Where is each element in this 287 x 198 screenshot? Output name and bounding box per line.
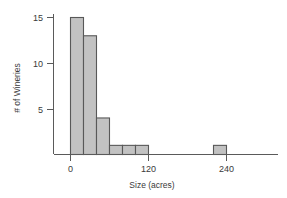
bar-rect (71, 18, 84, 155)
bar-rect (97, 118, 110, 155)
y-tick-label: 15 (33, 13, 43, 23)
bar-rect (110, 145, 123, 154)
bar-rect (214, 145, 227, 154)
histogram-chart: 15 10 5 0 120 240 Size (acres) # of Wine… (0, 0, 287, 198)
x-tick-label: 0 (68, 164, 73, 174)
y-tick-label: 10 (33, 59, 43, 69)
histogram-svg: 15 10 5 0 120 240 Size (acres) # of Wine… (0, 0, 287, 198)
bar-rect (123, 145, 136, 154)
x-tick-label: 120 (141, 164, 156, 174)
y-tick-label: 5 (38, 105, 43, 115)
x-axis-ticks (71, 155, 227, 162)
x-axis-tick-labels: 0 120 240 (68, 164, 234, 174)
x-axis-title: Size (acres) (129, 180, 175, 190)
y-axis-title: # of Wineries (12, 63, 22, 113)
bar-rect (136, 145, 149, 154)
x-tick-label: 240 (219, 164, 234, 174)
y-axis-tick-labels: 15 10 5 (33, 13, 43, 115)
bar-rect (84, 36, 97, 155)
y-axis-ticks (47, 18, 54, 110)
plot-bars (71, 18, 227, 155)
